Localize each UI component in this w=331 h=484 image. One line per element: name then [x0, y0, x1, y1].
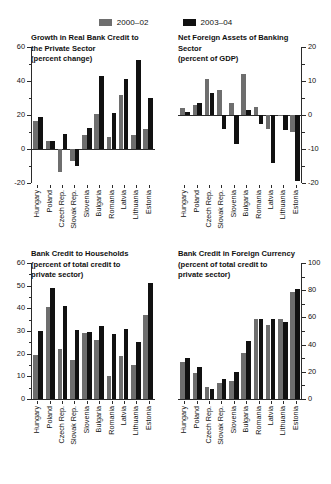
x-axis-tick-label: Slovak Rep.: [218, 190, 225, 229]
legend-entry-2003-04: 2003–04: [183, 18, 233, 27]
x-axis-tick: [259, 401, 260, 404]
bar-group: [240, 263, 252, 399]
x-axis-tick-label: Czech Rep.: [58, 406, 65, 444]
bar: [70, 360, 75, 399]
x-axis-category: Romania: [252, 185, 264, 251]
x-axis-tick: [184, 185, 185, 188]
x-axis-tick: [197, 185, 198, 188]
bar-group: [142, 47, 154, 183]
x-axis-tick-label: Latvia: [120, 406, 127, 425]
bar-group: [93, 263, 105, 399]
y-axis-tick-label: 30: [17, 327, 25, 334]
bar: [46, 141, 51, 149]
x-axis-tick: [87, 401, 88, 404]
x-axis-labels: HungaryPolandCzech Rep.Slovak Rep.Sloven…: [31, 185, 155, 251]
bar: [266, 115, 271, 129]
y-axis-tick: [302, 317, 306, 318]
x-axis-tick-label: Hungary: [34, 406, 41, 433]
panel-bank-credit-foreign-currency: Bank Credit in Foreign Currency (percent…: [166, 249, 331, 471]
x-axis-category: Hungary: [31, 401, 43, 467]
x-axis-category: Slovenia: [228, 185, 240, 251]
bar-group: [105, 263, 117, 399]
x-axis-category: Lithuania: [277, 185, 289, 251]
bar: [107, 137, 112, 149]
bar: [193, 373, 198, 399]
x-axis-category: Latvia: [118, 185, 130, 251]
x-axis-category: Slovak Rep.: [68, 401, 80, 467]
y-axis-tick: [27, 376, 31, 377]
x-axis-tick: [62, 401, 63, 404]
y-axis-tick-label: -20: [308, 179, 319, 186]
bar-group: [289, 47, 301, 183]
x-axis-tick-label: Estonia: [145, 190, 152, 214]
bar: [241, 74, 246, 115]
plot-area: 100806040200: [178, 263, 302, 399]
panel-bank-credit-households: Bank Credit to Households (percent of to…: [0, 249, 165, 471]
y-axis-minor-tick: [29, 166, 32, 167]
bar: [180, 362, 185, 399]
x-axis-category: Estonia: [143, 185, 155, 251]
y-axis-tick: [302, 149, 306, 150]
x-axis-tick-label: Bulgaria: [243, 190, 250, 216]
x-axis-category: Czech Rep.: [203, 401, 215, 467]
bar-group: [81, 47, 93, 183]
bar: [33, 121, 38, 149]
y-axis-tick: [302, 115, 306, 116]
x-axis-category: Czech Rep.: [56, 401, 68, 467]
bar-group: [179, 47, 191, 183]
bar-group: [44, 47, 56, 183]
bar-group: [142, 263, 154, 399]
x-axis-tick: [296, 401, 297, 404]
bar: [124, 79, 129, 149]
x-axis-tick: [259, 185, 260, 188]
x-axis-tick: [283, 401, 284, 404]
bar: [99, 76, 104, 149]
bar-series-container: [179, 47, 301, 183]
x-axis-tick: [124, 401, 125, 404]
bar-group: [277, 47, 289, 183]
x-axis-tick-label: Lithuania: [280, 190, 287, 219]
bar: [180, 108, 185, 115]
x-axis-tick-label: Slovenia: [230, 190, 237, 218]
bar: [33, 355, 38, 399]
x-axis-category: Lithuania: [277, 401, 289, 467]
bar-group: [203, 47, 215, 183]
x-axis-tick-label: Bulgaria: [96, 406, 103, 432]
bar-group: [264, 47, 276, 183]
bar: [295, 289, 300, 399]
x-axis-tick-label: Bulgaria: [243, 406, 250, 432]
bar: [241, 353, 246, 399]
x-axis-tick: [271, 401, 272, 404]
panel-growth-real-bank-credit: Growth in Real Bank Credit to the Privat…: [0, 33, 165, 255]
bar-group: [277, 263, 289, 399]
y-axis-tick: [302, 290, 306, 291]
y-axis-minor-tick: [302, 277, 305, 278]
y-axis-tick-label: 20: [17, 111, 25, 118]
bar: [119, 356, 124, 399]
bar: [75, 149, 80, 166]
bar-group: [69, 47, 81, 183]
bar: [271, 115, 276, 163]
y-axis-minor-tick: [302, 358, 305, 359]
x-axis-tick-label: Hungary: [181, 406, 188, 433]
x-axis-tick-label: Czech Rep.: [58, 190, 65, 228]
y-axis-tick-label: 40: [17, 77, 25, 84]
bar-group: [240, 47, 252, 183]
bar: [50, 141, 55, 149]
bar: [229, 381, 234, 399]
bar: [197, 103, 202, 115]
y-axis-tick: [302, 399, 306, 400]
x-axis-tick: [112, 185, 113, 188]
x-axis-tick: [234, 185, 235, 188]
bar: [222, 379, 227, 399]
x-axis-category: Romania: [105, 401, 117, 467]
y-axis-tick-label: 0: [21, 395, 25, 402]
x-axis-tick-label: Romania: [108, 406, 115, 435]
x-axis-category: Latvia: [265, 185, 277, 251]
y-axis-tick-label: 40: [17, 304, 25, 311]
x-axis-category: Lithuania: [130, 401, 142, 467]
y-axis-tick: [27, 47, 31, 48]
bar: [148, 98, 153, 149]
y-axis-minor-tick: [29, 274, 32, 275]
x-axis-category: Hungary: [31, 185, 43, 251]
